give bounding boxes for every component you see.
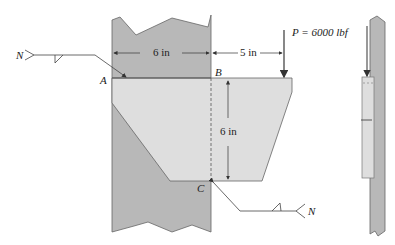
side-view-plate — [362, 77, 374, 178]
dim-horizontal-weld-label: 6 in — [153, 47, 170, 58]
point-b-label: B — [215, 67, 222, 78]
point-a-label: A — [100, 75, 107, 86]
weld-symbol-left-label: N — [16, 50, 23, 61]
weld-symbol-left — [25, 50, 126, 77]
point-c-label: C — [197, 183, 204, 194]
weld-symbol-right-label: N — [308, 206, 315, 217]
load-label: P = 6000 lbf — [292, 27, 348, 38]
dim-load-offset-label: 5 in — [240, 47, 257, 58]
dim-vertical-weld-label: 6 in — [220, 126, 237, 137]
weld-symbol-right — [213, 182, 305, 218]
